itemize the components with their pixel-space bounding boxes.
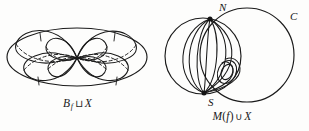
label-circle-C: C [290, 10, 297, 22]
caption-right-base: M [212, 110, 222, 122]
south-pole-dot [202, 91, 207, 96]
tick-upper-left [40, 33, 41, 41]
label-north-pole: N [219, 1, 226, 13]
left-figure-caption: Bf⊔X [0, 97, 155, 111]
tick-lower-right [116, 77, 117, 85]
left-figure-panel: Bf⊔X [0, 0, 155, 131]
tick-lower-left [38, 77, 39, 85]
figure-root: Bf⊔X [0, 0, 309, 131]
right-figure-panel: M(f)∪X [155, 0, 309, 131]
tick-upper-right [114, 33, 115, 41]
wedge-basepoint [75, 56, 78, 59]
bouquet-of-spheres-diagram [0, 0, 155, 131]
north-pole-dot [208, 17, 213, 22]
caption-left-operator: ⊔ [74, 98, 85, 109]
label-south-pole: S [208, 96, 214, 108]
right-figure-caption: M(f)∪X [155, 110, 309, 122]
meridian-5 [204, 19, 217, 93]
caption-right-operand: X [244, 110, 251, 122]
caption-left-operand: X [85, 97, 92, 109]
meridian-1 [183, 19, 210, 93]
caption-right-operator: ∪ [234, 111, 245, 122]
